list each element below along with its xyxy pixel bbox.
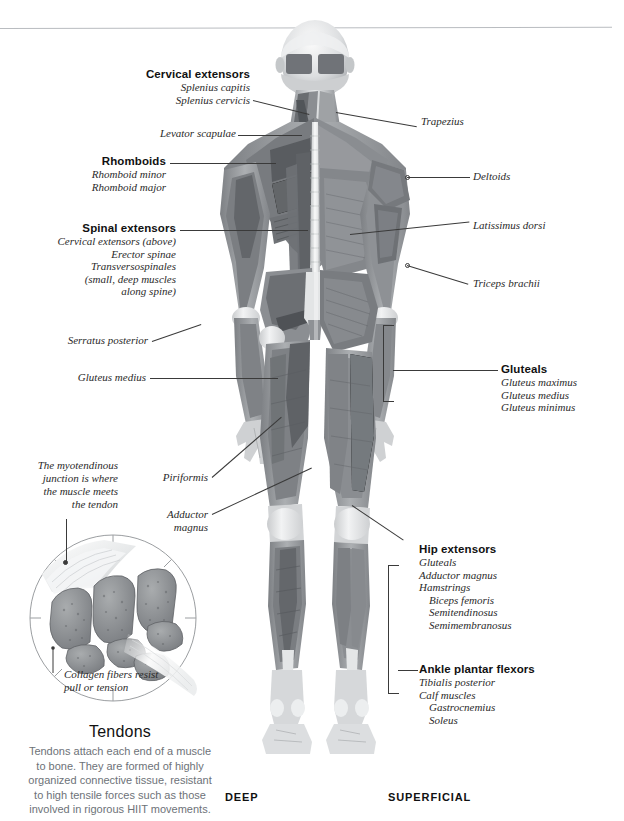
label-spinal-extensors: Spinal extensors Cervical extensors (abo… [0, 222, 176, 298]
leader-rhomboids [170, 163, 276, 164]
label-gluteus-medius-item-0: Gluteus medius [0, 371, 146, 384]
tendons-body-line-3: to high tensile forces such as those [8, 788, 232, 803]
anatomy-poster: Cervical extensors Splenius capitis Sple… [0, 0, 624, 821]
label-hip-extensors-sub-0: Biceps femoris [419, 594, 512, 607]
leader-gluteals [393, 370, 498, 371]
caption-myotendinous-line-0: The myotendinous [0, 459, 118, 472]
label-spinal-extensors-item-0: Cervical extensors (above) [0, 235, 176, 248]
label-ankle-plantar-flexors-sub-1: Soleus [419, 714, 535, 727]
tendons-body-line-4: involved in rigorous HIIT movements. [8, 802, 232, 817]
label-adductor-magnus: Adductor magnus [0, 508, 208, 533]
leader-dot-myotendinous [63, 560, 68, 565]
leader-spinal-extensors [180, 230, 308, 231]
tendons-body-line-0: Tendons attach each end of a muscle [8, 744, 232, 759]
label-spinal-extensors-head: Spinal extensors [0, 222, 176, 235]
key-superficial-label: SUPERFICIAL [388, 791, 471, 803]
label-trapezius-item-0: Trapezius [421, 115, 464, 128]
tendons-body-line-2: organized connective tissue, resistant [8, 773, 232, 788]
caption-myotendinous-junction: The myotendinous junction is where the m… [0, 459, 118, 511]
label-cervical-extensors-item-1: Splenius cervicis [0, 94, 250, 107]
label-levator-scapulae-item-0: Levator scapulae [0, 127, 236, 140]
label-hip-extensors-sub-1: Semitendinosus [419, 606, 512, 619]
caption-collagen-line-1: pull or tension [64, 681, 224, 694]
label-hip-extensors-sub-2: Semimembranosus [419, 619, 512, 632]
label-hip-extensors-item-0: Gluteals [419, 556, 512, 569]
label-gluteals-item-0: Gluteus maximus [501, 376, 577, 389]
tendons-panel-title: Tendons [20, 723, 220, 741]
leader-dot-triceps-brachii [405, 263, 410, 268]
label-adductor-magnus-item-1: magnus [0, 521, 208, 534]
label-spinal-extensors-item-1: Erector spinae [0, 248, 176, 261]
caption-collagen-fibers: Collagen fibers resist pull or tension [64, 668, 224, 694]
label-gluteals-item-2: Gluteus minimus [501, 401, 577, 414]
tendons-panel-body: Tendons attach each end of a muscle to b… [8, 744, 232, 817]
label-spinal-extensors-item-2: Transversospinales [0, 260, 176, 273]
leader-dot-deltoids [405, 175, 410, 180]
leader-ankle-plantar-flexors [398, 670, 418, 671]
leader-gluteus-medius [150, 378, 278, 379]
label-hip-extensors-item-1: Adductor magnus [419, 569, 512, 582]
label-cervical-extensors: Cervical extensors Splenius capitis Sple… [0, 68, 250, 106]
label-latissimus-dorsi: Latissimus dorsi [473, 219, 545, 232]
label-rhomboids-item-0: Rhomboid minor [0, 168, 166, 181]
label-deltoids-item-0: Deltoids [473, 170, 510, 183]
label-gluteus-medius: Gluteus medius [0, 371, 146, 384]
label-ankle-plantar-flexors-sub-0: Gastrocnemius [419, 701, 535, 714]
label-latissimus-dorsi-item-0: Latissimus dorsi [473, 219, 545, 232]
tendons-body-line-1: to bone. They are formed of highly [8, 759, 232, 774]
bracket-ankle-plantar-flexors [388, 565, 399, 694]
label-levator-scapulae: Levator scapulae [0, 127, 236, 140]
label-hip-extensors-head: Hip extensors [419, 543, 512, 556]
label-spinal-extensors-item-4: along spine) [0, 285, 176, 298]
label-gluteals-item-1: Gluteus medius [501, 389, 577, 402]
leader-deltoids [407, 177, 470, 178]
label-rhomboids-item-1: Rhomboid major [0, 181, 166, 194]
caption-myotendinous-line-2: the muscle meets [0, 485, 118, 498]
label-gluteals-head: Gluteals [501, 363, 577, 376]
caption-myotendinous-line-3: the tendon [0, 498, 118, 511]
label-ankle-plantar-flexors-item-1: Calf muscles [419, 689, 535, 702]
label-triceps-brachii: Triceps brachii [473, 277, 540, 290]
label-hip-extensors: Hip extensors Gluteals Adductor magnus H… [419, 543, 512, 632]
label-rhomboids: Rhomboids Rhomboid minor Rhomboid major [0, 155, 166, 193]
label-triceps-brachii-item-0: Triceps brachii [473, 277, 540, 290]
caption-myotendinous-line-1: junction is where [0, 472, 118, 485]
label-deltoids: Deltoids [473, 170, 510, 183]
label-serratus-posterior: Serratus posterior [0, 334, 148, 347]
label-ankle-plantar-flexors-head: Ankle plantar flexors [419, 663, 535, 676]
label-rhomboids-head: Rhomboids [0, 155, 166, 168]
bracket-gluteals [383, 325, 394, 402]
leader-levator-scapulae [238, 135, 302, 136]
key-deep-label: DEEP [225, 791, 259, 803]
label-cervical-extensors-item-0: Splenius capitis [0, 81, 250, 94]
label-ankle-plantar-flexors-item-0: Tibialis posterior [419, 676, 535, 689]
caption-collagen-line-0: Collagen fibers resist [64, 668, 224, 681]
label-gluteals: Gluteals Gluteus maximus Gluteus medius … [501, 363, 577, 414]
label-spinal-extensors-item-3: (small, deep muscles [0, 273, 176, 286]
label-hip-extensors-item-2: Hamstrings [419, 581, 512, 594]
label-ankle-plantar-flexors: Ankle plantar flexors Tibialis posterior… [419, 663, 535, 726]
label-trapezius: Trapezius [421, 115, 464, 128]
label-cervical-extensors-head: Cervical extensors [0, 68, 250, 81]
label-serratus-posterior-item-0: Serratus posterior [0, 334, 148, 347]
